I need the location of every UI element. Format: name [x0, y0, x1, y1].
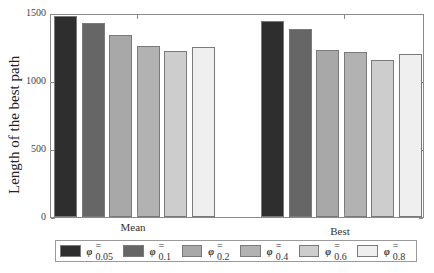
legend-label: = 0.05 — [95, 240, 118, 262]
phi-symbol: φ — [87, 246, 93, 257]
legend-item: φ= 0.4 — [240, 240, 294, 262]
legend-item: φ= 0.1 — [123, 240, 177, 262]
legend-swatch — [240, 245, 261, 257]
legend-label: = 0.8 — [393, 240, 411, 262]
legend-swatch — [357, 245, 378, 257]
bar-best-0 — [261, 21, 284, 217]
phi-symbol: φ — [150, 246, 156, 257]
phi-symbol: φ — [208, 246, 214, 257]
bar-mean-5 — [192, 47, 215, 217]
legend-swatch — [299, 245, 320, 257]
legend-swatch — [123, 245, 144, 257]
ytick-mark — [419, 218, 423, 219]
bar-mean-0 — [54, 16, 77, 217]
ytick-500: 500 — [16, 143, 46, 154]
xtick-mark — [137, 213, 138, 217]
legend-swatch — [60, 245, 81, 257]
legend-label: = 0.6 — [334, 240, 352, 262]
bar-mean-4 — [164, 51, 187, 217]
ytick-0: 0 — [16, 211, 46, 222]
plot-area — [50, 14, 424, 218]
bar-mean-3 — [137, 46, 160, 217]
bar-mean-2 — [109, 35, 132, 217]
legend-label: = 0.1 — [159, 240, 177, 262]
phi-symbol: φ — [325, 246, 331, 257]
legend-item: φ= 0.05 — [60, 240, 118, 262]
bar-best-5 — [399, 54, 422, 217]
xtick-mark — [137, 15, 138, 19]
legend: φ= 0.05φ= 0.1φ= 0.2φ= 0.4φ= 0.6φ= 0.8 — [55, 240, 417, 262]
ytick-mark — [419, 14, 423, 15]
bar-best-3 — [344, 52, 367, 217]
xtick-mark — [344, 15, 345, 19]
ytick-1000: 1000 — [16, 75, 46, 86]
legend-item: φ= 0.6 — [299, 240, 353, 262]
legend-item: φ= 0.2 — [182, 240, 236, 262]
xtick-mean: Mean — [120, 221, 145, 233]
bar-mean-1 — [82, 23, 105, 217]
legend-item: φ= 0.8 — [357, 240, 411, 262]
ytick-1500: 1500 — [16, 7, 46, 18]
bar-best-2 — [316, 50, 339, 217]
phi-symbol: φ — [384, 246, 390, 257]
xtick-mark — [344, 213, 345, 217]
ytick-mark — [51, 218, 55, 219]
legend-swatch — [182, 245, 203, 257]
legend-label: = 0.2 — [217, 240, 235, 262]
bar-best-4 — [371, 60, 394, 217]
xtick-best: Best — [330, 225, 350, 237]
phi-symbol: φ — [267, 246, 273, 257]
bar-best-1 — [289, 29, 312, 217]
legend-label: = 0.4 — [276, 240, 294, 262]
